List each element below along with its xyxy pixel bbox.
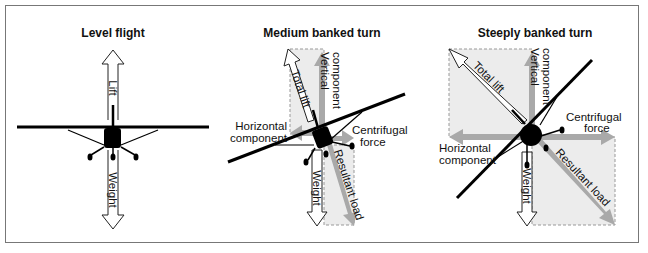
forces-in-turn-diagram: Level flight Lift Weight Medium banked t… [0,0,648,253]
vertical-component-label: Vertical [319,52,331,90]
weight-label: Weight [107,172,119,208]
vertical-component-label-2: component [541,48,553,106]
panel-title: Medium banked turn [263,26,380,40]
panel-title: Level flight [81,26,144,40]
centrifugal-force-label-2: force [360,136,386,148]
panel-title: Steeply banked turn [478,26,593,40]
panel-level-flight: Level flight Lift Weight [17,26,209,229]
panel-steeply-banked-turn: Steeply banked turn Total lift Weight [439,26,622,226]
vertical-component-label-2: component [331,52,343,110]
panel-medium-banked-turn: Medium banked turn Total lift Weight [228,26,408,226]
lift-label: Lift [107,80,119,96]
centrifugal-force-label-2: force [584,122,610,134]
vertical-component-label: Vertical [529,48,541,86]
horizontal-component-label: Horizontal [235,120,287,132]
horizontal-component-label-2: component [230,132,288,144]
weight-label: Weight [311,170,323,206]
weight-label: Weight [521,168,533,204]
horizontal-component-label: Horizontal [439,142,491,154]
horizontal-component-label-2: component [439,154,497,166]
aircraft-icon [17,105,209,161]
centrifugal-force-label: Centrifugal [352,124,408,136]
